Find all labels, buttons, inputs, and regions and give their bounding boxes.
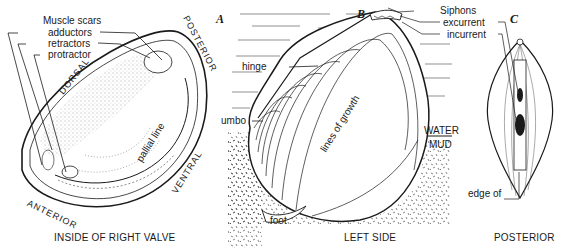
panel-b-letter: B (357, 7, 365, 22)
panel-c-posterior-drawing (487, 22, 552, 199)
label-excurrent: excurrent (443, 17, 485, 28)
caption-inside-of-right-valve: INSIDE OF RIGHT VALVE (54, 232, 175, 243)
label-adductors: adductors (48, 27, 92, 38)
panel-a-letter: A (216, 12, 224, 27)
label-water: WATER (424, 125, 459, 136)
label-incurrent: incurrent (447, 29, 486, 40)
label-hinge: hinge (242, 61, 266, 72)
label-muscle-scars: Muscle scars (43, 15, 101, 26)
label-siphons: Siphons (440, 5, 476, 16)
caption-posterior: POSTERIOR (494, 232, 555, 243)
label-foot: foot (270, 215, 287, 226)
label-mud: MUD (429, 139, 452, 150)
panel-c-letter: C (510, 12, 518, 27)
label-umbo: umbo (221, 115, 246, 126)
caption-left-side: LEFT SIDE (344, 232, 396, 243)
label-retractors: retractors (48, 38, 90, 49)
bivalve-anatomy-figure: A Muscle scars adductors retractors prot… (0, 0, 566, 248)
label-edge-of: edge of (468, 188, 501, 199)
